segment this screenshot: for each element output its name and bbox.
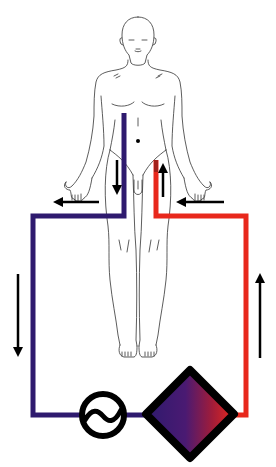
head-outline	[122, 17, 154, 65]
flow-arrows	[18, 160, 260, 358]
ecmo-diagram: Extracorporeal circuit (femoro-femoral E…	[0, 0, 276, 467]
patient-figure	[64, 17, 211, 357]
genitals-outline	[134, 180, 142, 195]
navel-dot	[136, 139, 140, 143]
oxygenator	[146, 370, 234, 458]
centrifugal-pump	[82, 394, 124, 436]
venous-line	[33, 113, 124, 415]
diagram-canvas	[0, 0, 276, 467]
